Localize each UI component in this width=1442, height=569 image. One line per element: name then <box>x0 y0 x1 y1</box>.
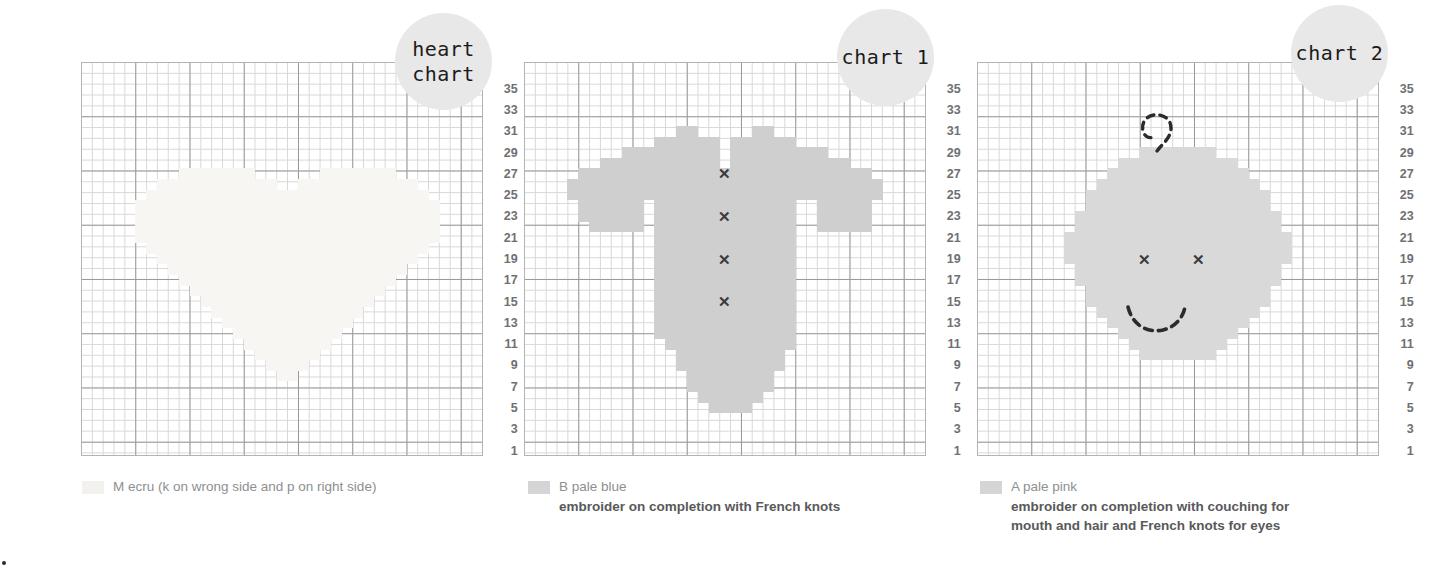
row-number: 5 <box>511 402 518 415</box>
row-number: 29 <box>1400 147 1414 160</box>
chart-2-legend: A pale pink embroider on completion with… <box>980 478 1289 535</box>
row-number: 25 <box>504 189 518 202</box>
dashed-hair-curl-icon <box>1127 110 1187 156</box>
chart-1-legend: B pale blue embroider on completion with… <box>528 478 840 516</box>
motif-cell-run <box>135 232 439 243</box>
row-number: 21 <box>947 232 961 245</box>
heart-chart-badge-label: heartchart <box>412 37 475 86</box>
row-number: 9 <box>511 359 518 372</box>
chart-1-embroidery-marks: ✕✕✕✕ <box>524 62 926 456</box>
row-number: 21 <box>1400 232 1414 245</box>
page-corner-mark <box>2 561 6 565</box>
row-number: 1 <box>511 445 518 458</box>
french-knot-cross-icon: ✕ <box>1138 252 1151 267</box>
heart-chart-grid <box>81 62 483 456</box>
chart-2-embroidery-marks: ✕✕ <box>977 62 1379 456</box>
row-number: 11 <box>947 338 961 351</box>
row-number: 7 <box>511 381 518 394</box>
row-number: 9 <box>1407 359 1414 372</box>
motif-cell-run <box>244 339 331 350</box>
french-knot-cross-icon: ✕ <box>1192 252 1205 267</box>
row-number: 11 <box>504 338 518 351</box>
row-number: 25 <box>947 189 961 202</box>
chart-1-row-numbers: 3533312927252321191715131197531 <box>931 62 961 456</box>
row-number: 33 <box>504 104 518 117</box>
legend-note: embroider on completion with couching fo… <box>1011 497 1289 516</box>
row-number: 23 <box>504 210 518 223</box>
legend-note: mouth and hair and French knots for eyes <box>1011 516 1289 535</box>
row-number: 31 <box>504 125 518 138</box>
row-number: 31 <box>1400 125 1414 138</box>
row-number: 33 <box>1400 104 1414 117</box>
french-knot-cross-icon: ✕ <box>718 252 731 267</box>
heart-chart-row-numbers: 3533312927252321191715131197531 <box>488 62 518 456</box>
row-number: 17 <box>1400 274 1414 287</box>
motif-cell-run <box>146 190 428 201</box>
motif-cell-run <box>298 179 418 190</box>
row-number: 23 <box>1400 210 1414 223</box>
dashed-smile-icon <box>1123 302 1191 336</box>
row-number: 19 <box>1400 253 1414 266</box>
row-number: 21 <box>504 232 518 245</box>
row-number: 5 <box>954 402 961 415</box>
legend-yarn-name: B pale blue <box>559 478 627 495</box>
motif-cell-run <box>211 307 363 318</box>
row-number: 1 <box>1407 445 1414 458</box>
row-number: 35 <box>1400 83 1414 96</box>
row-number: 1 <box>954 445 961 458</box>
row-number: 17 <box>504 274 518 287</box>
row-number: 9 <box>954 359 961 372</box>
motif-cell-run <box>157 179 277 190</box>
legend-yarn-name: A pale pink <box>1011 478 1077 495</box>
row-number: 23 <box>947 210 961 223</box>
row-number: 33 <box>947 104 961 117</box>
motif-cell-run <box>266 360 309 371</box>
chart-2-badge-label: chart 2 <box>1296 41 1384 65</box>
row-number: 29 <box>504 147 518 160</box>
heart-motif-cells <box>81 62 483 456</box>
chart-1-badge-label: chart 1 <box>842 45 930 69</box>
row-number: 3 <box>954 423 961 436</box>
motif-cell-run <box>135 200 439 211</box>
legend-swatch-ecru <box>82 481 104 494</box>
row-number: 3 <box>1407 423 1414 436</box>
motif-cell-run <box>146 243 428 254</box>
row-number: 19 <box>947 253 961 266</box>
row-number: 15 <box>504 296 518 309</box>
row-number: 5 <box>1407 402 1414 415</box>
row-number: 25 <box>1400 189 1414 202</box>
chart-2-grid: ✕✕ <box>977 62 1379 456</box>
heart-chart-badge: heartchart <box>395 13 492 110</box>
row-number: 17 <box>947 274 961 287</box>
chart-2-badge: chart 2 <box>1291 5 1388 102</box>
row-number: 27 <box>504 168 518 181</box>
row-number: 13 <box>1400 317 1414 330</box>
legend-swatch-pale-blue <box>528 481 550 494</box>
french-knot-cross-icon: ✕ <box>718 209 731 224</box>
row-number: 7 <box>1407 381 1414 394</box>
row-number: 35 <box>947 83 961 96</box>
motif-cell-run <box>190 286 386 297</box>
row-number: 31 <box>947 125 961 138</box>
motif-cell-run <box>179 168 255 179</box>
row-number: 15 <box>1400 296 1414 309</box>
french-knot-cross-icon: ✕ <box>718 294 731 309</box>
motif-cell-run <box>222 318 352 329</box>
row-number: 3 <box>511 423 518 436</box>
chart-1-badge: chart 1 <box>837 9 934 106</box>
row-number: 15 <box>947 296 961 309</box>
row-number: 27 <box>947 168 961 181</box>
row-number: 7 <box>954 381 961 394</box>
motif-cell-run <box>255 350 320 361</box>
row-number: 13 <box>504 317 518 330</box>
motif-cell-run <box>320 168 396 179</box>
motif-cell-run <box>233 328 342 339</box>
motif-cell-run <box>135 211 439 222</box>
row-number: 19 <box>504 253 518 266</box>
row-number: 27 <box>1400 168 1414 181</box>
row-number: 13 <box>947 317 961 330</box>
chart-2-row-numbers: 3533312927252321191715131197531 <box>1384 62 1414 456</box>
legend-swatch-pale-pink <box>980 481 1002 494</box>
row-number: 29 <box>947 147 961 160</box>
motif-cell-run <box>179 275 396 286</box>
